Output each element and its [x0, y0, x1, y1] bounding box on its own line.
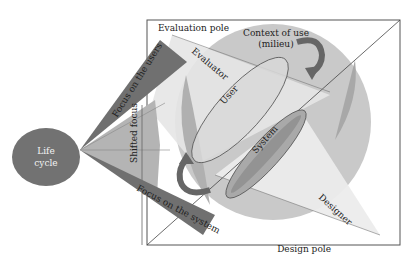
- diagram-canvas: Life cycle Evaluation pole Design pole E…: [0, 0, 407, 277]
- life-cycle-circle: [12, 128, 80, 186]
- design-pole-label: Design pole: [277, 244, 331, 254]
- life-cycle-label-1: Life: [37, 146, 55, 156]
- context-label-2: (milieu): [258, 39, 293, 49]
- evaluation-pole-label: Evaluation pole: [158, 23, 229, 33]
- context-label-1: Context of use: [243, 28, 309, 38]
- shifted-focus-label: Shifted focus: [129, 103, 139, 163]
- life-cycle-label-2: cycle: [34, 158, 57, 168]
